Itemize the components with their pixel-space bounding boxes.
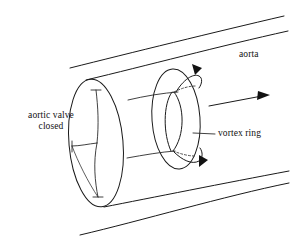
aorta-wall-top-outer-line xyxy=(70,16,284,68)
valve-leaflet-upper xyxy=(96,90,98,143)
label-aorta: aorta xyxy=(239,49,259,60)
aortic-valve-group xyxy=(64,77,129,209)
label-aortic-valve-line1: aortic valve xyxy=(28,110,74,120)
flow-direction-arrow xyxy=(209,91,270,106)
circulation-arrow-bottom-head xyxy=(199,155,208,167)
label-vortex-ring: vortex ring xyxy=(218,128,261,139)
valve-leaflet-lower xyxy=(95,143,98,197)
aorta-vortex-ring-figure: aortic valve closed aorta vortex ring xyxy=(0,0,290,249)
flow-direction-arrow-head xyxy=(257,91,270,100)
circulation-arrow-top-head xyxy=(192,64,202,75)
streamline-lower xyxy=(127,151,175,158)
flow-direction-arrow-shaft xyxy=(209,96,262,106)
vortex-ring-inner-hole-left xyxy=(165,92,172,151)
label-aortic-valve-closed: aortic valve closed xyxy=(12,110,90,132)
valve-leaflet-left xyxy=(72,143,97,146)
vortex-ring-leader-line xyxy=(193,133,215,134)
vortex-ring-inner-hole-right xyxy=(173,92,182,151)
valve-commissure-curve-left xyxy=(72,146,98,197)
label-aortic-valve-line2: closed xyxy=(12,121,90,132)
circulation-arrow-bottom xyxy=(174,148,202,162)
vortex-ring-group xyxy=(127,64,208,171)
vortex-ring-outer-ellipse xyxy=(149,67,204,170)
vortex-ring-hidden-edge-bottom xyxy=(173,151,195,156)
